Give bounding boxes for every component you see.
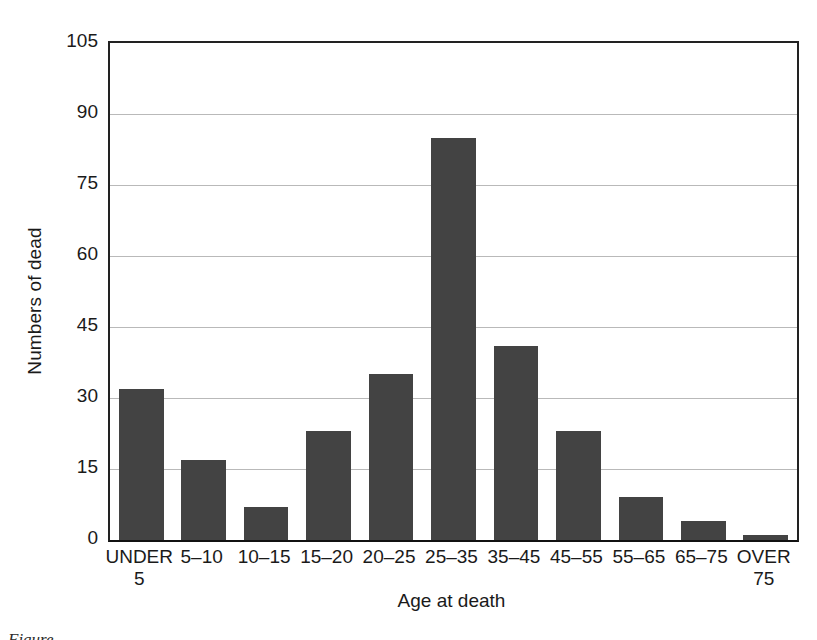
x-tick-label: 55–65 — [612, 546, 665, 568]
x-tick-label: 25–35 — [425, 546, 478, 568]
x-axis-tick-labels: UNDER55–1010–1515–2020–2525–3535–4545–55… — [0, 0, 817, 640]
x-tick-label: UNDER5 — [105, 546, 173, 590]
figure-caption: Figure — [8, 630, 54, 640]
x-tick-label: 35–45 — [488, 546, 541, 568]
x-tick-label: 20–25 — [363, 546, 416, 568]
x-tick-label: 10–15 — [238, 546, 291, 568]
bar-chart-figure: Numbers of dead 0153045607590105 UNDER55… — [0, 0, 817, 640]
x-tick-label: 45–55 — [550, 546, 603, 568]
x-tick-label: 15–20 — [300, 546, 353, 568]
x-axis-title: Age at death — [108, 590, 795, 612]
x-tick-label: 5–10 — [181, 546, 223, 568]
x-tick-label: OVER75 — [737, 546, 791, 590]
x-tick-label: 65–75 — [675, 546, 728, 568]
